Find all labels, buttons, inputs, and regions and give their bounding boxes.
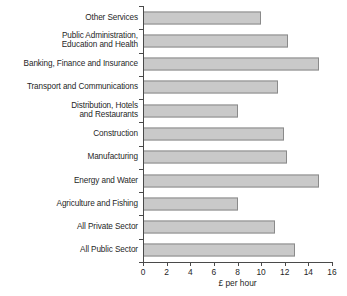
bar-chart: Other ServicesPublic Administration, Edu… (0, 0, 347, 296)
bar (143, 127, 284, 140)
y-tick (139, 76, 143, 77)
x-tick (143, 262, 144, 266)
y-tick (139, 169, 143, 170)
bar-row: Other Services (0, 6, 347, 29)
y-axis-line (143, 6, 144, 262)
x-tick (285, 262, 286, 266)
bar-row: Distribution, Hotels and Restaurants (0, 99, 347, 122)
bar (143, 221, 275, 234)
y-tick (139, 29, 143, 30)
y-tick (139, 192, 143, 193)
category-label: Agriculture and Fishing (2, 199, 138, 209)
bar-row: Energy and Water (0, 169, 347, 192)
x-tick (214, 262, 215, 266)
category-label: Public Administration, Education and Hea… (2, 31, 138, 50)
plot-area: Other ServicesPublic Administration, Edu… (0, 0, 347, 296)
category-label: Other Services (2, 13, 138, 23)
category-label: Manufacturing (2, 152, 138, 162)
y-tick (139, 99, 143, 100)
bar (143, 81, 278, 94)
x-tick (238, 262, 239, 266)
x-tick (167, 262, 168, 266)
bar-row: Public Administration, Education and Hea… (0, 29, 347, 52)
category-label: Energy and Water (2, 176, 138, 186)
x-tick (261, 262, 262, 266)
y-tick (139, 146, 143, 147)
bar-row: Manufacturing (0, 146, 347, 169)
bar (143, 58, 319, 71)
category-label: All Private Sector (2, 222, 138, 232)
category-label: Construction (2, 129, 138, 139)
bar-row: Transport and Communications (0, 76, 347, 99)
bar-row: All Private Sector (0, 215, 347, 238)
category-label: Distribution, Hotels and Restaurants (2, 101, 138, 120)
x-tick (308, 262, 309, 266)
category-label: Transport and Communications (2, 83, 138, 93)
x-tick-label: 2 (156, 267, 178, 277)
x-tick-label: 10 (250, 267, 272, 277)
category-label: All Public Sector (2, 246, 138, 256)
bar (143, 151, 287, 164)
bar (143, 174, 319, 187)
y-tick (139, 6, 143, 7)
x-tick-label: 0 (132, 267, 154, 277)
bar-row: All Public Sector (0, 239, 347, 262)
bar (143, 34, 288, 47)
x-tick-label: 12 (274, 267, 296, 277)
x-tick-label: 16 (321, 267, 343, 277)
bar-row: Banking, Finance and Insurance (0, 53, 347, 76)
bar-row: Construction (0, 122, 347, 145)
y-tick (139, 122, 143, 123)
x-axis-title: £ per hour (143, 278, 332, 288)
x-tick (332, 262, 333, 266)
x-tick-label: 4 (179, 267, 201, 277)
bar (143, 104, 238, 117)
x-tick-label: 8 (227, 267, 249, 277)
bar (143, 11, 261, 24)
y-tick (139, 215, 143, 216)
x-tick-label: 14 (297, 267, 319, 277)
category-label: Banking, Finance and Insurance (2, 59, 138, 69)
y-tick (139, 239, 143, 240)
bar (143, 197, 238, 210)
x-tick-label: 6 (203, 267, 225, 277)
bar (143, 244, 295, 257)
x-tick (190, 262, 191, 266)
y-tick (139, 53, 143, 54)
bar-row: Agriculture and Fishing (0, 192, 347, 215)
